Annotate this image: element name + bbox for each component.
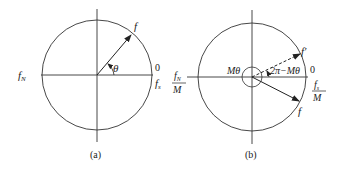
solid-vector-label: f xyxy=(298,105,303,117)
svg-text:fs: fs xyxy=(314,79,320,91)
svg-text:M: M xyxy=(172,84,182,95)
panel-b: f′ f Mθ 2π−Mθ 0 fs M fN M (b) xyxy=(172,10,326,161)
fs-label: fs xyxy=(155,77,161,91)
fN-over-M-label: fN M xyxy=(172,70,186,95)
M-theta-label: Mθ xyxy=(226,65,240,76)
dashed-vector-label: f′ xyxy=(301,45,307,57)
figure: f θ 0 fs fN (a) f′ f Mθ 2π−Mθ 0 fs M fN … xyxy=(0,0,340,174)
2pi-minus-M-theta-label: 2π−Mθ xyxy=(270,65,300,76)
zero-label: 0 xyxy=(310,64,315,75)
svg-text:M: M xyxy=(312,92,322,103)
svg-text:fN: fN xyxy=(174,70,182,82)
caption-a: (a) xyxy=(90,149,101,161)
zero-label: 0 xyxy=(155,62,160,73)
vector-label: f xyxy=(134,20,139,32)
angle-label: θ xyxy=(113,62,119,74)
fs-over-M-label: fs M xyxy=(312,79,326,103)
caption-b: (b) xyxy=(245,149,257,161)
frequency-vector xyxy=(252,77,299,101)
small-angle-arc xyxy=(267,71,269,77)
fN-label: fN xyxy=(18,69,26,83)
panel-a: f θ 0 fs fN (a) xyxy=(18,9,161,161)
